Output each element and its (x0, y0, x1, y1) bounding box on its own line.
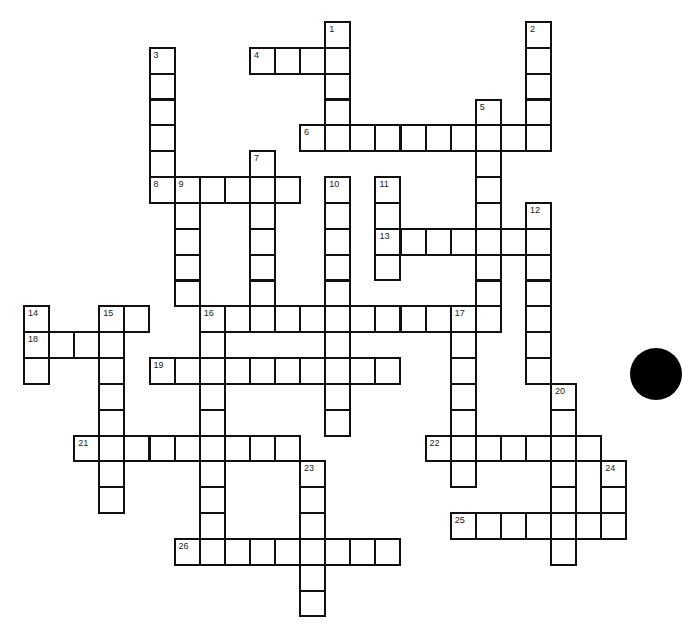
crossword-cell[interactable] (249, 435, 276, 463)
crossword-cell[interactable] (224, 357, 251, 385)
crossword-cell[interactable] (98, 409, 125, 437)
crossword-cell[interactable] (500, 435, 527, 463)
crossword-cell[interactable] (199, 409, 226, 437)
crossword-cell[interactable] (500, 512, 527, 540)
crossword-cell[interactable] (249, 538, 276, 566)
crossword-cell[interactable] (249, 305, 276, 333)
crossword-cell[interactable] (224, 538, 251, 566)
crossword-cell[interactable]: 12 (525, 202, 552, 230)
crossword-cell[interactable] (299, 47, 326, 75)
crossword-cell[interactable] (324, 538, 351, 566)
crossword-cell[interactable] (324, 383, 351, 411)
crossword-cell[interactable] (324, 202, 351, 230)
crossword-cell[interactable] (123, 435, 150, 463)
crossword-cell[interactable] (23, 357, 50, 385)
crossword-cell[interactable] (374, 124, 401, 152)
crossword-cell[interactable] (475, 305, 502, 333)
crossword-cell[interactable] (425, 228, 452, 256)
crossword-cell[interactable] (274, 357, 301, 385)
crossword-cell[interactable] (374, 538, 401, 566)
crossword-cell[interactable] (475, 124, 502, 152)
crossword-cell[interactable] (199, 357, 226, 385)
crossword-cell[interactable] (123, 305, 150, 333)
crossword-cell[interactable] (600, 486, 627, 514)
crossword-cell[interactable] (525, 228, 552, 256)
crossword-cell[interactable] (199, 331, 226, 359)
crossword-cell[interactable] (324, 73, 351, 101)
crossword-cell[interactable]: 9 (174, 176, 201, 204)
crossword-cell[interactable] (324, 280, 351, 308)
crossword-cell[interactable] (374, 202, 401, 230)
crossword-cell[interactable] (199, 538, 226, 566)
crossword-cell[interactable] (199, 435, 226, 463)
crossword-cell[interactable]: 5 (475, 99, 502, 127)
crossword-cell[interactable]: 1 (324, 21, 351, 49)
crossword-cell[interactable] (500, 124, 527, 152)
crossword-cell[interactable]: 23 (299, 460, 326, 488)
crossword-cell[interactable] (324, 409, 351, 437)
crossword-cell[interactable] (425, 124, 452, 152)
crossword-cell[interactable] (425, 305, 452, 333)
crossword-cell[interactable] (400, 228, 427, 256)
crossword-cell[interactable] (324, 331, 351, 359)
crossword-cell[interactable] (299, 590, 326, 618)
crossword-cell[interactable] (475, 176, 502, 204)
crossword-cell[interactable]: 13 (374, 228, 401, 256)
crossword-cell[interactable] (299, 512, 326, 540)
crossword-cell[interactable] (149, 435, 176, 463)
crossword-cell[interactable]: 25 (450, 512, 477, 540)
crossword-cell[interactable] (249, 254, 276, 282)
crossword-cell[interactable] (450, 409, 477, 437)
crossword-cell[interactable] (199, 460, 226, 488)
crossword-cell[interactable] (299, 538, 326, 566)
crossword-cell[interactable] (550, 538, 577, 566)
crossword-cell[interactable] (525, 99, 552, 127)
crossword-cell[interactable] (249, 228, 276, 256)
crossword-cell[interactable] (575, 435, 602, 463)
crossword-cell[interactable] (98, 435, 125, 463)
crossword-cell[interactable]: 24 (600, 460, 627, 488)
crossword-cell[interactable] (575, 512, 602, 540)
crossword-cell[interactable] (48, 331, 75, 359)
crossword-cell[interactable] (349, 124, 376, 152)
crossword-cell[interactable] (475, 280, 502, 308)
crossword-cell[interactable] (500, 228, 527, 256)
crossword-cell[interactable] (324, 124, 351, 152)
crossword-cell[interactable]: 10 (324, 176, 351, 204)
crossword-cell[interactable] (525, 254, 552, 282)
crossword-cell[interactable] (98, 383, 125, 411)
crossword-cell[interactable] (525, 512, 552, 540)
crossword-cell[interactable]: 2 (525, 21, 552, 49)
crossword-cell[interactable] (450, 228, 477, 256)
crossword-cell[interactable] (550, 460, 577, 488)
crossword-cell[interactable] (98, 460, 125, 488)
crossword-cell[interactable] (249, 202, 276, 230)
crossword-cell[interactable] (224, 305, 251, 333)
crossword-cell[interactable] (475, 254, 502, 282)
crossword-cell[interactable] (274, 176, 301, 204)
crossword-cell[interactable] (450, 460, 477, 488)
crossword-cell[interactable] (274, 305, 301, 333)
crossword-cell[interactable] (174, 202, 201, 230)
crossword-cell[interactable] (299, 305, 326, 333)
crossword-cell[interactable] (450, 383, 477, 411)
crossword-cell[interactable] (600, 512, 627, 540)
crossword-cell[interactable] (249, 176, 276, 204)
crossword-cell[interactable]: 16 (199, 305, 226, 333)
crossword-cell[interactable] (525, 305, 552, 333)
crossword-cell[interactable] (199, 486, 226, 514)
crossword-cell[interactable] (349, 305, 376, 333)
crossword-cell[interactable] (324, 357, 351, 385)
crossword-cell[interactable] (324, 47, 351, 75)
crossword-cell[interactable] (450, 357, 477, 385)
crossword-cell[interactable] (450, 124, 477, 152)
crossword-cell[interactable] (525, 331, 552, 359)
crossword-cell[interactable] (73, 331, 100, 359)
crossword-cell[interactable]: 3 (149, 47, 176, 75)
crossword-cell[interactable] (174, 228, 201, 256)
crossword-cell[interactable]: 11 (374, 176, 401, 204)
crossword-cell[interactable]: 6 (299, 124, 326, 152)
crossword-cell[interactable] (324, 305, 351, 333)
crossword-cell[interactable]: 4 (249, 47, 276, 75)
crossword-cell[interactable] (349, 538, 376, 566)
